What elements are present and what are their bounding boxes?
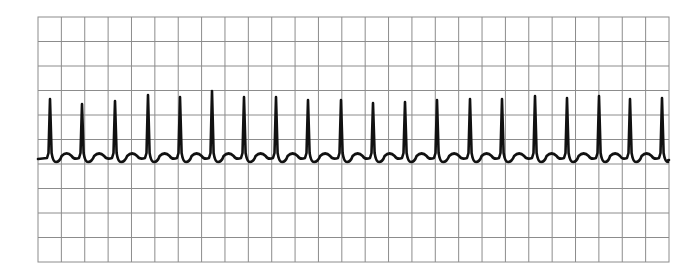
ecg-chart	[0, 0, 696, 277]
ecg-rhythm-strip	[0, 0, 696, 277]
grid	[38, 17, 669, 262]
